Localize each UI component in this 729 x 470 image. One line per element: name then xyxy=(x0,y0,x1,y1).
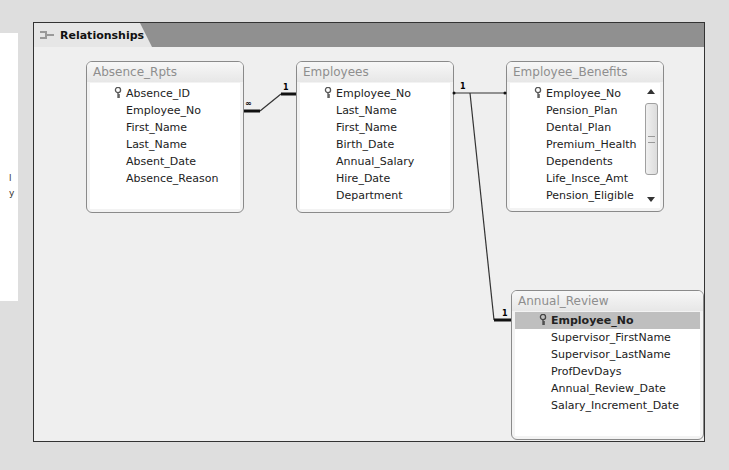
field-life-insce-amt[interactable]: Life_Insce_Amt xyxy=(510,170,660,187)
field-list: Employee_No Supervisor_FirstName Supervi… xyxy=(515,312,700,436)
field-list: Absence_ID Employee_No First_Name Last_N… xyxy=(90,83,240,209)
field-annual-salary[interactable]: Annual_Salary xyxy=(300,153,450,170)
table-employees[interactable]: Employees Employee_No Last_Name First_Na… xyxy=(296,61,454,213)
field-birth-date[interactable]: Birth_Date xyxy=(300,136,450,153)
field-first-name[interactable]: First_Name xyxy=(90,119,240,136)
side-mark: l xyxy=(9,173,12,183)
tab-relationships[interactable]: Relationships xyxy=(34,23,152,47)
vertical-scrollbar[interactable] xyxy=(644,85,658,206)
table-annual-review[interactable]: Annual_Review Employee_No Supervisor_Fir… xyxy=(511,290,704,440)
primary-key-icon xyxy=(114,87,122,99)
table-title[interactable]: Annual_Review xyxy=(512,291,703,311)
field-first-name[interactable]: First_Name xyxy=(300,119,450,136)
field-last-name[interactable]: Last_Name xyxy=(90,136,240,153)
field-salary-increment-date[interactable]: Salary_Increment_Date xyxy=(515,397,700,414)
field-last-name[interactable]: Last_Name xyxy=(300,102,450,119)
field-pension-eligible[interactable]: Pension_Eligible xyxy=(510,187,660,204)
field-premium-health[interactable]: Premium_Health xyxy=(510,136,660,153)
primary-key-icon xyxy=(534,87,542,99)
primary-key-icon xyxy=(539,314,547,326)
table-absence-rpts[interactable]: Absence_Rpts Absence_ID Employee_No Firs… xyxy=(86,61,244,213)
side-mark: y xyxy=(9,188,14,198)
field-supervisor-lastname[interactable]: Supervisor_LastName xyxy=(515,346,700,363)
field-department[interactable]: Department xyxy=(300,187,450,204)
field-absence-id[interactable]: Absence_ID xyxy=(90,85,240,102)
table-title[interactable]: Absence_Rpts xyxy=(87,62,243,82)
field-hire-date[interactable]: Hire_Date xyxy=(300,170,450,187)
field-list: Employee_No Pension_Plan Dental_Plan Pre… xyxy=(510,83,660,208)
primary-key-icon xyxy=(324,87,332,99)
table-title[interactable]: Employees xyxy=(297,62,453,82)
field-dependents[interactable]: Dependents xyxy=(510,153,660,170)
grip-icon xyxy=(648,136,655,143)
tab-label: Relationships xyxy=(60,29,144,42)
scroll-up-icon[interactable] xyxy=(647,89,655,94)
table-employee-benefits[interactable]: Employee_Benefits Employee_No Pension_Pl… xyxy=(506,61,664,212)
field-vacation[interactable]: Vacation xyxy=(510,204,660,208)
field-list: Employee_No Last_Name First_Name Birth_D… xyxy=(300,83,450,209)
field-profdevdays[interactable]: ProfDevDays xyxy=(515,363,700,380)
field-supervisor-firstname[interactable]: Supervisor_FirstName xyxy=(515,329,700,346)
field-pension-plan[interactable]: Pension_Plan xyxy=(510,102,660,119)
field-absent-date[interactable]: Absent_Date xyxy=(90,153,240,170)
field-annual-review-date[interactable]: Annual_Review_Date xyxy=(515,380,700,397)
field-employee-no[interactable]: Employee_No xyxy=(515,312,700,329)
table-title[interactable]: Employee_Benefits xyxy=(507,62,663,82)
scroll-down-icon[interactable] xyxy=(647,197,655,202)
tab-bar: Relationships xyxy=(34,23,704,47)
relationships-icon xyxy=(40,29,54,41)
field-absence-reason[interactable]: Absence_Reason xyxy=(90,170,240,187)
field-employee-no[interactable]: Employee_No xyxy=(90,102,240,119)
field-employee-no[interactable]: Employee_No xyxy=(300,85,450,102)
scroll-thumb[interactable] xyxy=(645,103,658,175)
field-employee-no[interactable]: Employee_No xyxy=(510,85,660,102)
side-panel: l y xyxy=(0,33,18,301)
field-dental-plan[interactable]: Dental_Plan xyxy=(510,119,660,136)
